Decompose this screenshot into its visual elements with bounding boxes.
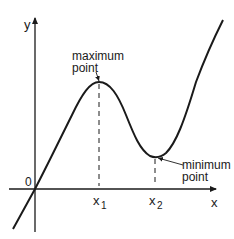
svg-text:1: 1 [101,200,107,211]
x1-tick-label: x 1 [93,193,107,211]
y-axis-label: y [24,17,31,32]
origin-label: 0 [25,175,32,189]
x2-tick-label: x 2 [149,193,163,211]
minimum-pointer [158,158,183,165]
svg-text:2: 2 [157,200,163,211]
svg-text:x: x [93,193,100,208]
x-axis-label: x [211,195,218,210]
graph-canvas: y x 0 maximum point minimum point x 1 x … [0,0,234,239]
minimum-label-line2: point [182,170,209,184]
maximum-label-line2: point [72,61,99,75]
function-graph-diagram: y x 0 maximum point minimum point x 1 x … [0,0,234,239]
svg-text:x: x [149,193,156,208]
